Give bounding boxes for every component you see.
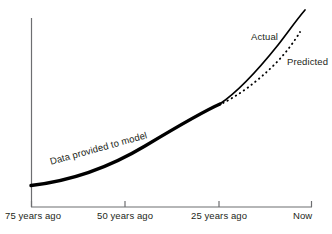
series-label-predicted: Predicted: [287, 56, 328, 67]
x-axis-tick-label-50-years-ago: 50 years ago: [97, 210, 153, 221]
series-line-predicted: [219, 32, 300, 105]
x-axis-tick-label-25-years-ago: 25 years ago: [191, 210, 247, 221]
x-axis-tick-label-now: Now: [293, 210, 312, 221]
chart-plot-area: [0, 0, 332, 234]
chart-container: 75 years ago 50 years ago 25 years ago N…: [0, 0, 332, 234]
x-axis-tick-label-75-years-ago: 75 years ago: [5, 210, 61, 221]
series-label-actual: Actual: [251, 31, 278, 42]
